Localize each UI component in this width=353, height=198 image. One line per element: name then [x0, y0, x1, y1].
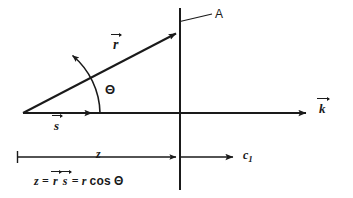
projection-equation: z=rs=rcosΘ	[34, 175, 123, 187]
theta-angle-label: Θ	[105, 83, 115, 96]
s-vector-glyph: s	[53, 119, 60, 132]
r-vector-label: r	[112, 38, 119, 52]
equation-equals-1: =	[39, 174, 52, 188]
c1-speed-label: c1	[243, 149, 253, 164]
z-dimension-label: z	[96, 148, 101, 160]
r-vector-glyph: r	[112, 38, 119, 52]
k-vector-label: k	[318, 102, 327, 115]
plane-label-A: A	[215, 8, 223, 20]
c1-subscript: 1	[248, 154, 253, 164]
equation-equals-2: =	[69, 174, 82, 188]
vector-projection-diagram: A k r s Θ z c1 z=rs=rcosΘ	[0, 0, 353, 198]
s-vector-label: s	[53, 119, 60, 132]
equation-vec-s: s	[62, 175, 69, 187]
equation-theta: Θ	[114, 174, 124, 188]
plane-label-leader-line	[180, 14, 212, 22]
diagram-canvas	[0, 0, 353, 198]
equation-cos: cos	[90, 174, 111, 188]
equation-vec-r: r	[52, 175, 59, 187]
equation-r-magnitude: r	[82, 174, 87, 188]
k-vector-glyph: k	[318, 102, 327, 115]
